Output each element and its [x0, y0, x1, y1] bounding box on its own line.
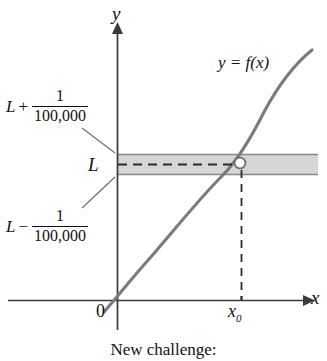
lower-bound-fraction: 1 100,000	[32, 208, 88, 244]
lower-bound-label: L − 1 100,000	[6, 208, 88, 244]
x0-label-base: x	[228, 301, 236, 321]
upper-bound-fraction: 1 100,000	[32, 88, 88, 124]
upper-bound-numerator: 1	[53, 88, 67, 106]
x0-label-subscript: 0	[236, 312, 242, 324]
intersection-open-point	[235, 158, 246, 169]
limit-value-label: L	[88, 155, 99, 174]
upper-bound-leader-line	[82, 128, 115, 153]
x0-label: x0	[228, 302, 242, 324]
curve-label: y = f(x)	[218, 54, 269, 71]
upper-bound-lead: L	[6, 98, 15, 115]
y-axis-label: y	[112, 4, 120, 23]
lower-bound-denominator: 100,000	[32, 227, 88, 245]
upper-bound-label: L + 1 100,000	[6, 88, 88, 124]
lower-bound-operator: −	[18, 218, 28, 235]
figure-caption: New challenge:	[0, 340, 327, 360]
lower-bound-numerator: 1	[53, 208, 67, 226]
limit-definition-figure: y x 0 x0 y = f(x) L L + 1 100,000 L − 1 …	[0, 0, 327, 361]
origin-label: 0	[96, 302, 105, 320]
upper-bound-operator: +	[18, 98, 28, 115]
lower-bound-leader-line	[82, 177, 115, 208]
upper-bound-denominator: 100,000	[32, 107, 88, 125]
function-curve	[104, 50, 312, 312]
x-axis-label: x	[311, 288, 319, 307]
plot-canvas	[0, 0, 327, 361]
lower-bound-lead: L	[6, 218, 15, 235]
